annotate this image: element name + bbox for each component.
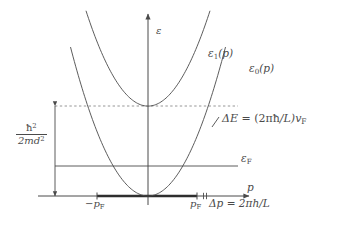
delta-e-equals: = (241, 112, 250, 125)
energy-scale-denominator-base: 2md (18, 136, 40, 147)
delta-p-annotation: Δp = 2πh/L (209, 198, 270, 209)
delta-e-rhs-open: (2π (254, 112, 273, 125)
pos-pf-tick-label: pF (190, 199, 201, 211)
fermi-energy-subscript: F (247, 157, 252, 166)
neg-pf-tick-label: −pF (85, 199, 105, 211)
delta-e-tick (212, 117, 219, 127)
epsilon-axis-label: ε (156, 26, 161, 36)
excited-curve-label-arg: (p) (218, 47, 233, 59)
delta-e-lhs: ΔE (222, 112, 238, 125)
ground-curve-label-arg: (p) (259, 62, 274, 74)
energy-scale-numerator: ħ2 (16, 123, 47, 134)
neg-pf-symbol: −p (85, 198, 100, 209)
delta-p-lhs: Δp (209, 197, 223, 209)
energy-dispersion-figure: ε ε1(p) ε0(p) ΔE = (2πħ/L)vF εF p −pF pF… (0, 0, 343, 228)
ground-curve-label: ε0(p) (249, 63, 274, 75)
delta-e-velocity-subscript: F (301, 117, 306, 126)
delta-p-rhs: 2πh/L (239, 197, 270, 209)
energy-scale-denominator: 2md2 (16, 135, 47, 146)
delta-p-equals: = (227, 197, 236, 209)
delta-e-over-l: /L) (280, 112, 295, 125)
p-axis-label: p (247, 182, 254, 193)
energy-scale-numerator-exponent: 2 (32, 122, 36, 130)
delta-e-annotation: ΔE = (2πħ/L)vF (222, 113, 307, 126)
fermi-energy-label: εF (241, 153, 252, 165)
neg-pf-subscript: F (100, 203, 105, 211)
energy-scale-label: ħ2 2md2 (16, 123, 47, 147)
delta-e-hbar: ħ (273, 112, 280, 125)
pos-pf-subscript: F (196, 203, 201, 211)
energy-scale-denominator-exponent: 2 (40, 135, 44, 143)
excited-curve-label: ε1(p) (208, 48, 233, 60)
